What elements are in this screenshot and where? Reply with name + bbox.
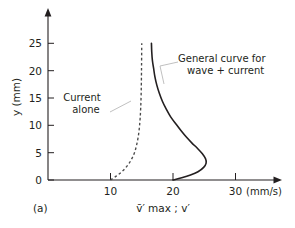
chart-canvas: 0 5 10 15 20 25 10 20 30 (mm/s) y (mm) v… (0, 0, 295, 228)
annotation-wave-current-line1: General curve for (178, 53, 266, 64)
x-tick-label-30: 30 (229, 185, 242, 197)
x-axis-arrow-icon (274, 177, 283, 184)
leader-line-wave-current (160, 62, 178, 84)
y-tick-label-20: 20 (29, 65, 42, 77)
panel-label: (a) (33, 202, 48, 214)
x-tick-marks (111, 173, 236, 180)
leader-line-current-alone (110, 101, 131, 112)
y-axis-title: y (mm) (10, 78, 22, 116)
y-axis-arrow-icon (45, 8, 52, 17)
x-tick-labels: 10 20 30 (mm/s) (104, 185, 282, 197)
annotation-current-alone-line1: Current (63, 92, 101, 103)
x-tick-label-20: 20 (166, 185, 179, 197)
annotation-current-alone-line2: alone (72, 104, 100, 115)
y-tick-label-25: 25 (29, 37, 42, 49)
y-tick-marks (48, 43, 54, 180)
annotation-wave-plus-current: General curve for wave + current (178, 53, 266, 76)
annotation-current-alone: Current alone (63, 92, 101, 115)
x-axis-unit-label: (mm/s) (246, 186, 282, 197)
x-axis-title: v̄′ max ; v′ (136, 202, 190, 214)
y-tick-label-5: 5 (35, 147, 42, 159)
y-tick-labels: 0 5 10 15 20 25 (29, 37, 42, 186)
curve-current-alone (111, 43, 142, 180)
figure-panel-a: 0 5 10 15 20 25 10 20 30 (mm/s) y (mm) v… (0, 0, 295, 228)
y-tick-label-15: 15 (29, 92, 42, 104)
y-tick-label-0: 0 (35, 174, 42, 186)
annotation-wave-current-line2: wave + current (187, 65, 264, 76)
y-tick-label-10: 10 (29, 119, 42, 131)
x-tick-label-10: 10 (104, 185, 117, 197)
